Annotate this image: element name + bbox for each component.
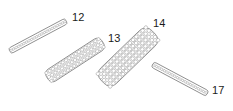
mesh-strip-17: [151, 62, 209, 96]
mesh-strip-12: [8, 18, 67, 53]
mesh-strip-14: [95, 24, 161, 89]
ref-label-14: 14: [153, 18, 165, 29]
figure-drawing: [0, 0, 233, 111]
ref-label-12: 12: [72, 12, 84, 23]
ref-label-13: 13: [108, 33, 120, 44]
mesh-strip-13: [44, 36, 107, 84]
figure-canvas: 12 13 14 17: [0, 0, 233, 111]
ref-label-17: 17: [212, 85, 224, 96]
